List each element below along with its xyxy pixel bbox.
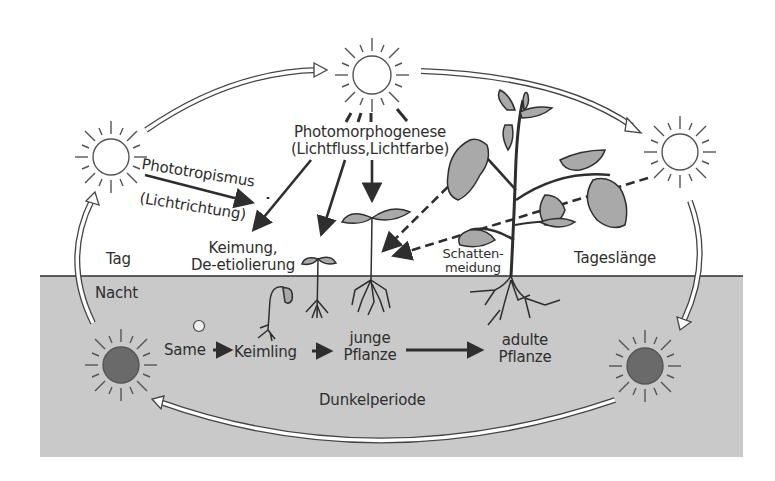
sun-outline-icon [335, 38, 409, 112]
sun-outline-icon [644, 116, 716, 188]
stage-adult-plant-line1: adulte [490, 332, 560, 349]
stage-young-plant-line1: junge [335, 330, 405, 347]
light-rays [346, 109, 407, 122]
stage-young-plant-line2: Pflanze [335, 347, 405, 364]
sun-dark-icon [85, 329, 157, 401]
shade-avoidance-title: Schatten- [438, 247, 508, 261]
hollow-arrow-icon [146, 63, 327, 130]
stage-adult-plant-label: adulte Pflanze [490, 332, 560, 366]
shade-avoidance-label: Schatten- meidung [438, 247, 508, 275]
stage-seedling-label: Keimling [234, 344, 297, 361]
sun-outline-icon [75, 121, 147, 193]
germination-subtitle: De-etiolierung [183, 257, 303, 274]
dark-period-label: Dunkelperiode [319, 392, 426, 409]
light-plant-development-diagram: Photomorphogenese (Lichtfluss,Lichtfarbe… [0, 0, 775, 481]
shade-avoidance-subtitle: meidung [438, 261, 508, 275]
germination-label: Keimung, De-etiolierung [183, 240, 303, 274]
sun-dark-icon [609, 330, 681, 402]
stage-adult-plant-line2: Pflanze [490, 349, 560, 366]
photomorphogenesis-title: Photomorphogenese [285, 124, 455, 141]
photomorphogenesis-label: Photomorphogenese (Lichtfluss,Lichtfarbe… [285, 124, 455, 158]
photomorphogenesis-subtitle: (Lichtfluss,Lichtfarbe) [285, 141, 455, 158]
night-label: Nacht [95, 285, 138, 302]
stage-seed-label: Same [164, 342, 206, 359]
stage-young-plant-label: junge Pflanze [335, 330, 405, 364]
germination-title: Keimung, [183, 240, 303, 257]
day-length-label: Tageslänge [574, 250, 656, 267]
day-label: Tag [106, 251, 131, 268]
seed-icon [194, 321, 205, 332]
